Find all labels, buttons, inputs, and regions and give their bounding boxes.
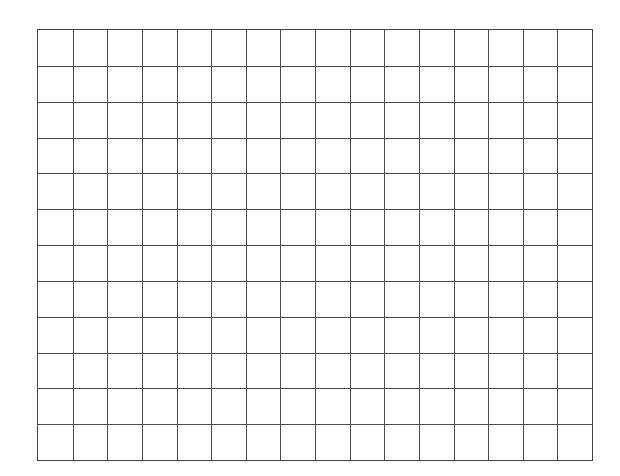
grid-horizontal-line	[38, 173, 592, 174]
grid-horizontal-line	[38, 245, 592, 246]
grid-horizontal-line	[38, 102, 592, 103]
grid-horizontal-line	[38, 317, 592, 318]
grid-horizontal-line	[38, 281, 592, 282]
grid-horizontal-line	[38, 209, 592, 210]
grid-horizontal-line	[38, 138, 592, 139]
grid-horizontal-line	[38, 424, 592, 425]
grid-horizontal-line	[38, 66, 592, 67]
grid-horizontal-line	[38, 388, 592, 389]
grid-horizontal-line	[38, 353, 592, 354]
blank-grid	[37, 29, 593, 461]
